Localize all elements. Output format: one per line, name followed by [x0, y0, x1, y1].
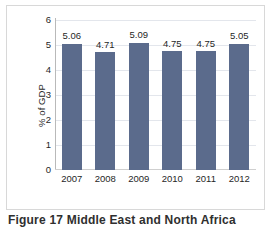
bar-value-label: 5.06 [63, 31, 82, 41]
bar-value-label: 4.75 [163, 39, 182, 49]
plot-area: % of GDP 0123456 5.064.715.094.754.755.0… [7, 6, 264, 209]
y-tick-label: 0 [35, 165, 51, 175]
bar[interactable]: 4.75 [162, 51, 182, 170]
y-tick-label: 5 [35, 40, 51, 50]
y-axis-tick-labels: 0123456 [35, 20, 51, 170]
x-tick-label: 2012 [223, 174, 257, 184]
bar[interactable]: 4.71 [95, 52, 115, 170]
bar-value-label: 4.71 [96, 40, 115, 50]
bar[interactable]: 4.75 [196, 51, 216, 170]
chart-panel: % of GDP 0123456 5.064.715.094.754.755.0… [6, 5, 265, 210]
bar-slot: 5.09 [122, 20, 156, 170]
y-tick-label: 1 [35, 140, 51, 150]
bar-slot: 5.05 [223, 20, 257, 170]
x-tick-label: 2011 [189, 174, 223, 184]
bar-value-label: 5.05 [230, 31, 249, 41]
bar-value-label: 4.75 [197, 39, 216, 49]
x-tick-label: 2008 [89, 174, 123, 184]
bar-slot: 4.71 [89, 20, 123, 170]
y-tick-label: 6 [35, 15, 51, 25]
x-axis-tick-labels: 200720082009201020112012 [55, 174, 256, 184]
y-tick-label: 4 [35, 65, 51, 75]
y-tick-label: 2 [35, 115, 51, 125]
y-tick-label: 3 [35, 90, 51, 100]
bar[interactable]: 5.05 [229, 44, 249, 170]
plot-canvas: 5.064.715.094.754.755.05 [55, 20, 256, 170]
x-tick-label: 2010 [156, 174, 190, 184]
figure-caption: Figure 17 Middle East and North Africa [8, 214, 268, 227]
bar-slot: 4.75 [189, 20, 223, 170]
bar-slot: 4.75 [156, 20, 190, 170]
bar-series: 5.064.715.094.754.755.05 [55, 20, 256, 170]
bar-value-label: 5.09 [130, 30, 149, 40]
bar[interactable]: 5.06 [62, 44, 82, 171]
x-tick-label: 2007 [55, 174, 89, 184]
x-tick-label: 2009 [122, 174, 156, 184]
figure-root: % of GDP 0123456 5.064.715.094.754.755.0… [0, 0, 275, 227]
bar-slot: 5.06 [55, 20, 89, 170]
bar[interactable]: 5.09 [129, 43, 149, 170]
figure-caption-text: Figure 17 Middle East and North Africa [8, 214, 268, 227]
